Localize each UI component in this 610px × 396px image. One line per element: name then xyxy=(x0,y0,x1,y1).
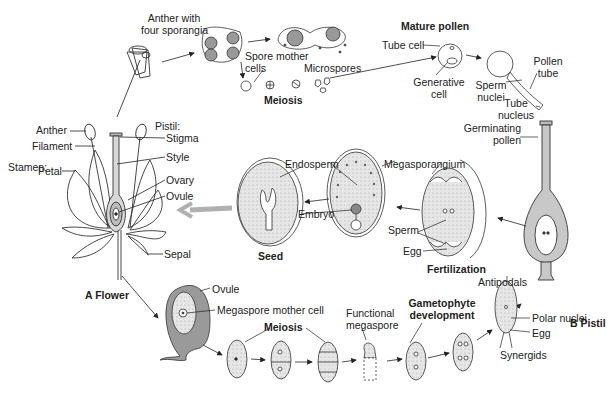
pollen-tube-line1: Pollen xyxy=(533,55,562,67)
gametophyte-development-label: Gametophytedevelopment xyxy=(407,297,477,321)
egg-gametophyte-label: Egg xyxy=(532,327,551,339)
pistil-b xyxy=(524,121,568,280)
anther-four-sporangia-label: Anther withfour sporangia xyxy=(141,12,207,36)
megasporangium-label: Megasporangium xyxy=(384,158,465,170)
germinating-line2: pollen xyxy=(493,134,521,146)
anther-with-stalk xyxy=(117,46,150,117)
mature-pollen xyxy=(438,44,462,68)
tube-nucleus-line1: Tube xyxy=(504,97,528,109)
seed xyxy=(237,158,303,246)
spore-mother-cells-label: Spore mothercells xyxy=(245,50,309,74)
life-cycle-diagram: Stamen: Anther Filament Petal Pistil: St… xyxy=(0,0,610,396)
ovule-with-mmc xyxy=(160,285,210,360)
label-stigma: Stigma xyxy=(166,132,199,144)
generative-cell-label: Generativecell xyxy=(411,76,467,100)
tube-cell-label: Tube cell xyxy=(382,39,424,51)
generative-line1: Generative xyxy=(413,76,464,88)
label-petal: Petal xyxy=(38,165,62,177)
meiosis-top-label: Meiosis xyxy=(264,94,303,106)
functional-megaspore-label: Functionalmegaspore xyxy=(346,307,399,331)
germinating-line1: Germinating xyxy=(464,122,521,134)
section-title-flower: Flower xyxy=(95,289,129,301)
germinating-pollen-label: Germinatingpollen xyxy=(461,122,521,146)
label-ovary: Ovary xyxy=(166,174,194,186)
endosperm-label: Endosperm xyxy=(285,158,339,170)
label-filament: Filament xyxy=(32,140,72,152)
sperm-nuclei-line1: Sperm xyxy=(476,79,507,91)
embryo-label: Embryo xyxy=(298,208,334,220)
gametophyte-line2: development xyxy=(410,309,475,321)
gametophyte-line1: Gametophyte xyxy=(408,297,475,309)
synergids-label: Synergids xyxy=(500,349,547,361)
anther-label-line2: four sporangia xyxy=(141,24,208,36)
spore-mother-line1: Spore mother xyxy=(245,50,309,62)
flower-section-label: A Flower xyxy=(85,289,129,301)
pistil-heading: Pistil: xyxy=(155,120,180,132)
mature-pollen-label: Mature pollen xyxy=(401,20,469,32)
ovule-label: Ovule xyxy=(212,283,239,295)
egg-fert-label: Egg xyxy=(403,245,422,257)
anther-label-line1: Anther with xyxy=(148,12,201,24)
spore-mother-line2: cells xyxy=(245,62,266,74)
gray-arrow xyxy=(190,208,232,210)
polar-nuclei-label: Polar nuclei xyxy=(532,312,587,324)
sperm-label: Sperm xyxy=(388,224,419,236)
seed-label: Seed xyxy=(258,250,283,262)
generative-line2: cell xyxy=(431,88,447,100)
fertilization-label: Fertilization xyxy=(427,263,486,275)
microspores-label: Microspores xyxy=(304,62,361,74)
antipodals-label: Antipodals xyxy=(478,276,527,288)
label-anther: Anther xyxy=(36,124,67,136)
label-sepal: Sepal xyxy=(164,248,191,260)
fertilization-ovule xyxy=(422,160,486,258)
meiosis-cells xyxy=(241,78,330,93)
pollen-tube-line2: tube xyxy=(538,67,558,79)
functional-line2: megaspore xyxy=(346,319,399,331)
tube-nucleus-label: Tubenucleus xyxy=(494,97,538,121)
functional-line1: Functional xyxy=(346,307,394,319)
pollen-tube-label: Pollentube xyxy=(530,55,566,79)
four-sporangia xyxy=(202,27,242,62)
label-style: Style xyxy=(166,151,189,163)
section-letter-a: A xyxy=(85,289,92,301)
tube-nucleus-line2: nucleus xyxy=(498,109,534,121)
megaspore-mother-cell-label: Megaspore mother cell xyxy=(217,304,324,316)
label-ovule: Ovule xyxy=(166,190,193,202)
meiosis-bottom-label: Meiosis xyxy=(264,321,303,333)
